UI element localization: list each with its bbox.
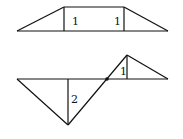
top-label-right: 1 <box>114 15 121 28</box>
intersection-point <box>105 77 109 81</box>
bottom-label-small: 1 <box>120 65 127 78</box>
right-slant <box>124 7 168 31</box>
small-triangle-right-side <box>127 55 168 79</box>
large-triangle-left-side <box>17 79 68 125</box>
diagram-canvas: 1 1 2 1 <box>0 0 183 139</box>
bottom-label-large: 2 <box>71 93 78 106</box>
top-label-left: 1 <box>72 15 79 28</box>
left-slant <box>17 7 64 31</box>
bottom-figure: 2 1 <box>17 55 168 125</box>
connecting-diagonal <box>68 55 127 125</box>
top-figure: 1 1 <box>17 7 168 31</box>
